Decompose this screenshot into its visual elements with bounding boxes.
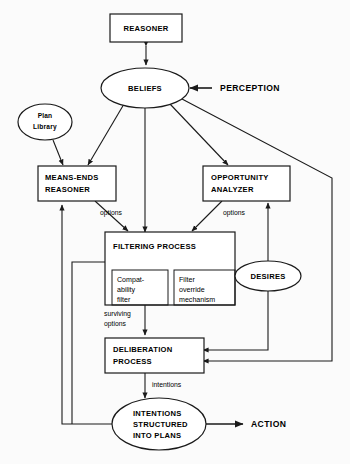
label-deliberation-line2: PROCESS	[113, 357, 152, 366]
label-perception: PERCEPTION	[220, 83, 280, 93]
label-opportunity-line1: OPPORTUNITY	[211, 173, 269, 182]
edge-label-surviving-line2: options	[104, 320, 127, 328]
node-means-ends-reasoner[interactable]	[38, 166, 116, 201]
label-filter-override-line1: Filter	[179, 276, 195, 284]
label-opportunity-line2: ANALYZER	[211, 185, 254, 194]
label-plan-library-line2: Library	[33, 123, 57, 131]
label-intentions-line2: STRUCTURED	[133, 420, 188, 429]
edge-beliefs-deliberation	[182, 99, 332, 361]
label-reasoner: REASONER	[123, 24, 168, 33]
edge-means-ends-filtering	[95, 201, 128, 231]
node-opportunity-analyzer[interactable]	[203, 166, 290, 201]
label-means-ends-line2: REASONER	[45, 185, 90, 194]
label-means-ends-line1: MEANS-ENDS	[45, 173, 99, 182]
edge-beliefs-opportunity	[170, 104, 228, 165]
bdi-architecture-diagram: REASONER BELIEFS PERCEPTION Plan Library…	[0, 0, 350, 464]
edge-planlibrary-means-ends	[53, 140, 63, 165]
edge-opportunity-filtering	[192, 201, 222, 231]
label-intentions-line1: INTENTIONS	[133, 409, 182, 418]
label-beliefs: BELIEFS	[128, 84, 162, 93]
label-action: ACTION	[251, 419, 286, 429]
label-deliberation-line1: DELIBERATION	[113, 345, 172, 354]
label-desires: DESIRES	[250, 272, 285, 281]
label-intentions-line3: INTO PLANS	[133, 431, 181, 440]
edge-beliefs-means-ends	[88, 104, 124, 165]
node-deliberation-process[interactable]	[105, 338, 204, 373]
edge-label-intentions: intentions	[152, 381, 182, 388]
edge-label-surviving-line1: surviving	[104, 310, 131, 318]
label-filter-override-line3: mechanism	[179, 296, 215, 304]
label-compatability-line2: ability	[117, 286, 136, 294]
edge-label-options-right: options	[223, 209, 246, 217]
label-filter-override-line2: override	[179, 286, 205, 294]
diagram-canvas: REASONER BELIEFS PERCEPTION Plan Library…	[0, 0, 350, 464]
edge-label-options-left: options	[100, 209, 123, 217]
label-compatability-line3: filter	[117, 296, 131, 304]
label-compatability-line1: Compat-	[117, 276, 145, 284]
label-plan-library-line1: Plan	[38, 112, 53, 119]
label-filtering-process: FILTERING PROCESS	[113, 242, 196, 251]
